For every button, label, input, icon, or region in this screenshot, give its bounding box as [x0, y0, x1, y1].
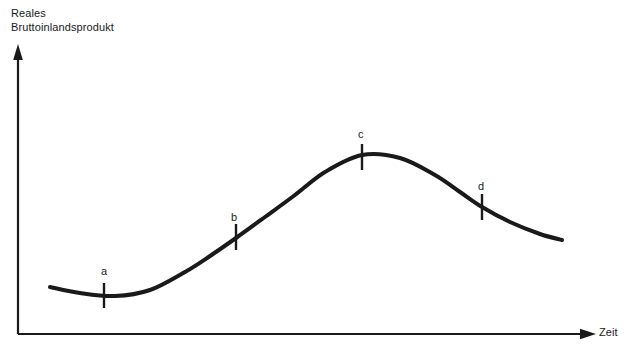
- point-label-d: d: [478, 180, 484, 192]
- gdp-cycle-curve: [50, 154, 562, 296]
- x-axis-title: Zeit: [599, 326, 618, 340]
- point-label-a: a: [101, 265, 107, 277]
- business-cycle-figure: RealesBruttoinlandsprodukt Zeit a b c d: [0, 0, 630, 350]
- chart-canvas: [0, 0, 630, 350]
- y-axis-title-line2: Bruttoinlandsprodukt: [11, 21, 114, 33]
- y-axis-title-line1: Reales: [11, 7, 46, 19]
- point-label-c: c: [358, 128, 364, 140]
- point-label-b: b: [231, 211, 237, 223]
- horizontal-axis-arrow: [18, 329, 596, 339]
- y-axis-title: RealesBruttoinlandsprodukt: [11, 7, 114, 34]
- vertical-axis-arrow: [13, 44, 23, 334]
